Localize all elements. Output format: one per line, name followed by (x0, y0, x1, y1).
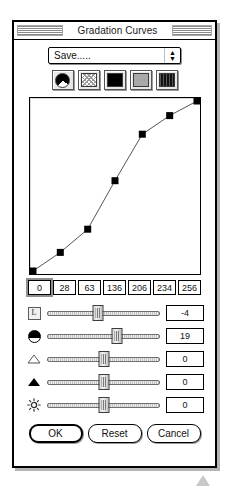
dome-icon (25, 328, 43, 344)
window-titlebar[interactable]: Gradation Curves (14, 22, 215, 40)
titlebar-stripes-right (172, 25, 212, 36)
channel-stripe-button[interactable] (156, 70, 178, 90)
highlight-value-field[interactable]: 0 (166, 351, 204, 367)
curve-plot[interactable] (30, 98, 200, 274)
curve-value-field-3[interactable]: 136 (103, 280, 126, 295)
brightness-slider-row: 0 (25, 395, 204, 415)
density-slider-thumb[interactable] (112, 328, 123, 344)
highlight-slider[interactable] (47, 351, 160, 367)
channel-button-row (24, 70, 205, 90)
gradation-curves-window: Gradation Curves Save..... ▲ ▼ (12, 20, 217, 468)
triangle-open-icon (25, 351, 43, 367)
letter-l-icon: L (25, 305, 43, 321)
shadow-slider-row: 0 (25, 372, 204, 392)
shadow-value-field[interactable]: 0 (166, 374, 204, 390)
contrast-value-field[interactable]: -4 (166, 305, 204, 321)
highlight-slider-thumb[interactable] (98, 351, 109, 367)
window-title: Gradation Curves (63, 25, 172, 36)
contrast-slider-row: L -4 (25, 303, 204, 323)
preset-select-label: Save..... (49, 50, 164, 61)
curve-graph[interactable] (29, 97, 201, 275)
curve-control-point-0[interactable] (30, 268, 37, 275)
density-value-field[interactable]: 19 (166, 328, 204, 344)
density-slider-track[interactable] (47, 334, 160, 339)
preset-select[interactable]: Save..... ▲ ▼ (48, 47, 181, 64)
curve-control-point-6[interactable] (193, 98, 200, 105)
cancel-button[interactable]: Cancel (147, 424, 201, 443)
gray-swatch-icon (133, 73, 149, 87)
dialog-content: Save..... ▲ ▼ (14, 40, 215, 449)
brightness-slider-thumb[interactable] (98, 397, 109, 413)
shadow-slider-thumb[interactable] (98, 374, 109, 390)
brightness-value-field[interactable]: 0 (166, 397, 204, 413)
brightness-slider[interactable] (47, 397, 160, 413)
curve-value-row: 0 28 63 136 206 234 256 (24, 280, 205, 295)
curve-control-point-3[interactable] (111, 177, 118, 184)
channel-gray-button[interactable] (130, 70, 152, 90)
reset-button[interactable]: Reset (88, 424, 142, 443)
shadow-slider[interactable] (47, 374, 160, 390)
curve-value-field-1[interactable]: 28 (53, 280, 76, 295)
dialog-button-row: OK Reset Cancel (24, 422, 205, 443)
pie-icon (55, 73, 70, 88)
curve-value-field-2[interactable]: 63 (78, 280, 101, 295)
channel-dither-button[interactable] (78, 70, 100, 90)
curve-value-field-0[interactable]: 0 (28, 280, 51, 295)
black-swatch-icon (107, 73, 123, 87)
curve-control-point-5[interactable] (166, 112, 173, 119)
channel-composite-button[interactable] (52, 70, 74, 90)
triangle-fill-icon (25, 374, 43, 390)
density-slider-row: 19 (25, 326, 204, 346)
stripe-swatch-icon (159, 73, 175, 87)
preset-row: Save..... ▲ ▼ (24, 47, 205, 64)
curve-graph-wrap (24, 97, 205, 275)
curve-value-field-4[interactable]: 206 (128, 280, 151, 295)
curve-value-field-5[interactable]: 234 (153, 280, 176, 295)
contrast-slider-track[interactable] (47, 311, 160, 316)
chevron-down-icon: ▼ (169, 56, 176, 62)
sun-icon (25, 397, 43, 413)
highlight-slider-row: 0 (25, 349, 204, 369)
curve-control-point-4[interactable] (138, 131, 145, 138)
preset-spinner-icon[interactable]: ▲ ▼ (164, 48, 180, 63)
ok-button[interactable]: OK (29, 424, 83, 443)
dither-swatch-icon (81, 73, 97, 87)
density-slider[interactable] (47, 328, 160, 344)
curve-value-field-6[interactable]: 256 (178, 280, 201, 295)
resize-triangle-icon (196, 475, 210, 486)
channel-black-button[interactable] (104, 70, 126, 90)
titlebar-stripes-left (17, 25, 63, 36)
slider-group: L -4 19 (25, 303, 204, 415)
curve-control-point-2[interactable] (84, 226, 91, 233)
curve-control-point-1[interactable] (56, 249, 63, 256)
contrast-slider-thumb[interactable] (92, 305, 103, 321)
contrast-slider[interactable] (47, 305, 160, 321)
